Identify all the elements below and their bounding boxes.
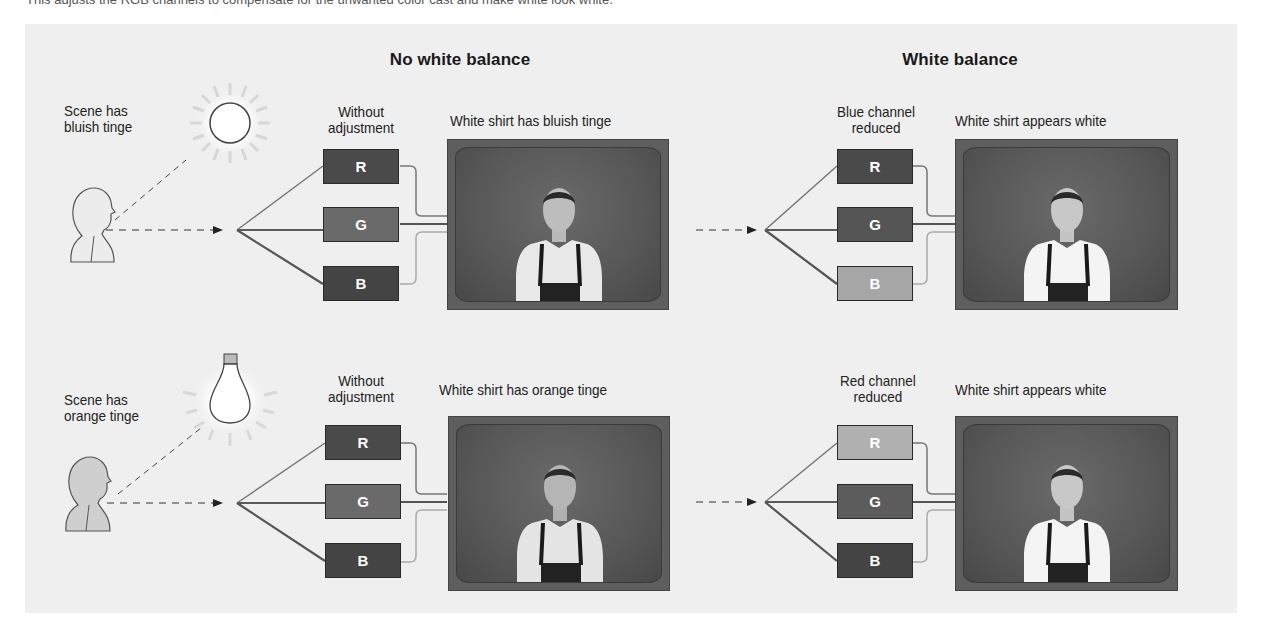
tv-screen-bluish bbox=[447, 139, 669, 310]
channel-box-b: B bbox=[837, 543, 913, 578]
light-ray bbox=[115, 160, 186, 220]
person-icon bbox=[71, 188, 115, 262]
channel-box-g: G bbox=[323, 207, 399, 242]
channel-box-b: B bbox=[323, 266, 399, 301]
tv-screen-orange bbox=[448, 416, 670, 591]
channel-box-g: G bbox=[837, 484, 913, 519]
man-photo bbox=[964, 425, 1170, 583]
man-photo bbox=[457, 425, 662, 583]
man-photo bbox=[964, 148, 1170, 302]
tv-screen-white-corrected bbox=[955, 139, 1178, 310]
channel-box-g: G bbox=[837, 207, 913, 242]
channel-box-r: R bbox=[325, 425, 401, 460]
channel-box-r: R bbox=[837, 149, 913, 184]
man-photo bbox=[456, 148, 661, 302]
channel-box-g: G bbox=[325, 484, 401, 519]
sun-icon bbox=[190, 83, 270, 163]
channel-box-r: R bbox=[323, 149, 399, 184]
channel-box-r-reduced: R bbox=[837, 425, 913, 460]
tv-screen-white-corrected bbox=[955, 416, 1178, 591]
channel-box-b: B bbox=[325, 543, 401, 578]
channel-box-b-reduced: B bbox=[837, 266, 913, 301]
person-icon bbox=[66, 457, 111, 531]
lightbulb-icon bbox=[183, 354, 277, 446]
